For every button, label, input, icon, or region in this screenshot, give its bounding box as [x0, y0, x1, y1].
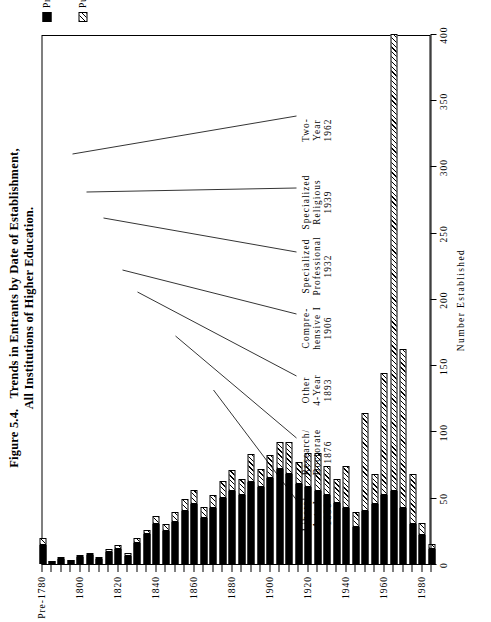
- category-axis-tick: [364, 565, 365, 572]
- bar-segment-private: [39, 545, 46, 564]
- category-axis-tick: [288, 565, 289, 572]
- bar-segment-public: [114, 545, 121, 549]
- value-axis-tick: [430, 233, 436, 234]
- bar-segment-private: [333, 503, 340, 564]
- value-axis-label: 300: [438, 159, 448, 176]
- bar-group: [304, 34, 311, 564]
- bar-group: [171, 34, 178, 564]
- legend-item: Public: [77, 0, 87, 22]
- annotation-line1: Compre-: [300, 306, 311, 350]
- bar-segment-private: [133, 543, 140, 564]
- value-axis-tick: [430, 365, 436, 366]
- category-axis-tick: [155, 565, 156, 572]
- category-axis-tick: [202, 565, 203, 572]
- bar-segment-public: [190, 490, 197, 505]
- value-axis-tick: [430, 34, 436, 35]
- bar-segment-public: [333, 479, 340, 503]
- chart-annotation: Other4-Year1893: [300, 374, 333, 405]
- bar-segment-private: [380, 495, 387, 564]
- bar-segment-private: [171, 522, 178, 564]
- bar-segment-public: [57, 557, 64, 559]
- category-axis-tick: [326, 565, 327, 572]
- value-axis-label: 50: [438, 493, 448, 505]
- annotation-year: 1893: [322, 374, 333, 405]
- bar-segment-public: [361, 413, 368, 511]
- value-axis-label: 100: [438, 424, 448, 441]
- bar-segment-private: [219, 498, 226, 564]
- annotation-line2: 4-Year: [311, 374, 322, 405]
- bar-segment-public: [171, 512, 178, 521]
- bar-segment-public: [76, 555, 83, 558]
- category-axis-tick: [50, 565, 51, 572]
- annotation-year: 1856: [322, 497, 333, 532]
- category-axis-tick: [69, 565, 70, 572]
- figure-title-line2: All Institutions of Higher Education.: [21, 207, 35, 410]
- category-axis-tick: [373, 565, 374, 572]
- bar-segment-public: [105, 549, 112, 552]
- value-axis-line: [430, 35, 431, 565]
- value-axis-label: 400: [438, 26, 448, 43]
- value-axis-label: 200: [438, 291, 448, 308]
- annotation-line1: Research/: [300, 429, 311, 476]
- bar-group: [371, 34, 378, 564]
- bar-group: [342, 34, 349, 564]
- bar-segment-public: [418, 523, 425, 535]
- annotation-line2: Doctorate: [311, 429, 322, 476]
- bar-segment-private: [409, 524, 416, 564]
- bar-segment-public: [200, 507, 207, 518]
- category-axis-tick: [221, 565, 222, 572]
- category-axis-tick: [269, 565, 270, 572]
- bar-group: [209, 34, 216, 564]
- bar-segment-private: [361, 511, 368, 564]
- bar-segment-private: [181, 511, 188, 564]
- bar-group: [124, 34, 131, 564]
- bar-group: [39, 34, 46, 564]
- legend-label: Private: [41, 0, 51, 8]
- bar-group: [162, 34, 169, 564]
- bars-container: [42, 36, 429, 564]
- bar-group: [152, 34, 159, 564]
- bar-segment-private: [143, 534, 150, 564]
- category-axis-tick: [231, 565, 232, 572]
- bar-segment-private: [152, 524, 159, 564]
- annotation-year: 1876: [322, 429, 333, 476]
- plot-area: [41, 35, 430, 565]
- bar-segment-public: [266, 455, 273, 478]
- bar-segment-private: [418, 535, 425, 564]
- annotation-line1: Specialized: [300, 175, 311, 230]
- chart-annotation: Compre-hensive I1906: [300, 306, 333, 350]
- bar-group: [418, 34, 425, 564]
- value-axis-tick: [430, 100, 436, 101]
- bar-segment-public: [162, 524, 169, 531]
- category-axis-tick: [250, 565, 251, 572]
- value-axis-tick: [430, 299, 436, 300]
- category-axis-label: 1820: [112, 576, 122, 599]
- bar-segment-public: [238, 479, 245, 495]
- bar-segment-private: [209, 508, 216, 564]
- bar-segment-public: [95, 557, 102, 559]
- bar-group: [86, 34, 93, 564]
- bar-group: [295, 34, 302, 564]
- bar-group: [57, 34, 64, 564]
- chart-annotation: Two-Year1962: [300, 118, 333, 142]
- bar-segment-private: [105, 552, 112, 564]
- bar-segment-private: [124, 556, 131, 564]
- annotation-line1: Specialized: [300, 236, 311, 295]
- category-axis-tick: [107, 565, 108, 572]
- bar-segment-private: [371, 504, 378, 564]
- bar-segment-private: [162, 531, 169, 564]
- category-axis-label: 1980: [416, 576, 426, 599]
- bar-group: [200, 34, 207, 564]
- bar-group: [361, 34, 368, 564]
- category-axis-tick: [174, 565, 175, 572]
- bar-group: [238, 34, 245, 564]
- legend: PrivatePublic: [41, 0, 113, 22]
- category-axis-label: 1840: [150, 576, 160, 599]
- bar-segment-public: [352, 512, 359, 527]
- category-axis-tick: [392, 565, 393, 572]
- bar-group: [257, 34, 264, 564]
- category-axis-tick: [88, 565, 89, 572]
- category-axis-tick: [60, 565, 61, 572]
- bar-group: [67, 34, 74, 564]
- bar-segment-public: [247, 454, 254, 482]
